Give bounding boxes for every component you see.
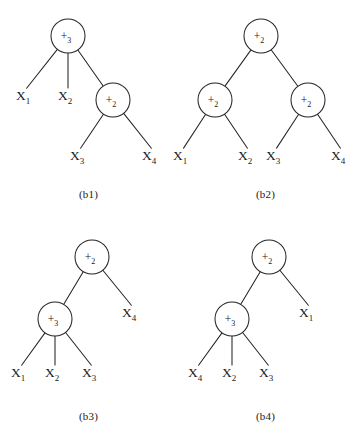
tree-edge <box>279 270 308 305</box>
tree-edge <box>65 332 91 365</box>
operator-node: +3 <box>215 302 249 336</box>
tree-panel-b3: +2+3X1X2X3X4 (b3) <box>0 219 177 438</box>
leaf-variable-label: X2 <box>238 148 252 166</box>
leaf-variable-label: X1 <box>16 88 30 106</box>
operator-node: +3 <box>51 19 85 53</box>
leaf-variable-label: X4 <box>331 148 346 166</box>
operator-node: +2 <box>252 240 286 274</box>
tree-graphic-b4: +2+3X4X2X3X1 <box>177 219 354 409</box>
panel-caption-b1: (b1) <box>0 188 177 200</box>
leaf-variable-label: X1 <box>11 365 25 383</box>
panel-caption-b2: (b2) <box>177 188 354 200</box>
tree-edge <box>271 49 298 86</box>
leaf-variable-label: X2 <box>222 365 236 383</box>
tree-edge <box>63 271 83 305</box>
tree-edge <box>277 114 299 148</box>
tree-graphic-b3: +2+3X1X2X3X4 <box>0 219 177 409</box>
leaf-variable-label: X3 <box>82 365 97 383</box>
operator-node: +2 <box>198 83 232 117</box>
leaf-variable-label: X2 <box>45 365 59 383</box>
tree-panel-b2: +2+2+2X1X2X3X4 (b2) <box>177 0 354 219</box>
tree-edge <box>317 114 340 148</box>
operator-node: +2 <box>291 83 325 117</box>
tree-edge <box>242 332 268 365</box>
tree-edge <box>102 270 131 305</box>
tree-edge <box>27 49 58 88</box>
tree-edge <box>123 113 151 148</box>
tree-edge <box>199 332 223 365</box>
leaf-variable-label: X1 <box>173 148 187 166</box>
tree-panel-b4: +2+3X4X2X3X1 (b4) <box>177 219 354 438</box>
leaf-variable-label: X3 <box>259 365 274 383</box>
tree-panel-b1: +3+2X1X2X3X4 (b1) <box>0 0 177 219</box>
tree-edge <box>81 114 104 148</box>
leaf-variable-label: X3 <box>266 148 281 166</box>
tree-edge <box>240 271 260 305</box>
leaf-variable-label: X2 <box>58 88 72 106</box>
leaf-variable-label: X3 <box>70 148 85 166</box>
tree-graphic-b1: +3+2X1X2X3X4 <box>0 0 177 190</box>
operator-node: +2 <box>244 19 278 53</box>
operator-node: +2 <box>96 83 130 117</box>
leaf-variable-label: X4 <box>142 148 157 166</box>
panel-caption-b4: (b4) <box>177 410 354 422</box>
tree-edge <box>22 332 46 365</box>
leaf-variable-label: X4 <box>122 305 137 323</box>
leaf-variable-label: X4 <box>188 365 203 383</box>
figure-root: +3+2X1X2X3X4 (b1) +2+2+2X1X2X3X4 (b2) +2… <box>0 0 355 438</box>
tree-edge <box>77 50 103 87</box>
operator-node: +2 <box>75 240 109 274</box>
tree-edge <box>225 49 252 86</box>
tree-edge <box>224 114 247 148</box>
leaf-variable-label: X1 <box>299 305 313 323</box>
tree-graphic-b2: +2+2+2X1X2X3X4 <box>177 0 354 190</box>
operator-node: +3 <box>38 302 72 336</box>
tree-edge <box>184 114 206 148</box>
panel-caption-b3: (b3) <box>0 410 177 422</box>
